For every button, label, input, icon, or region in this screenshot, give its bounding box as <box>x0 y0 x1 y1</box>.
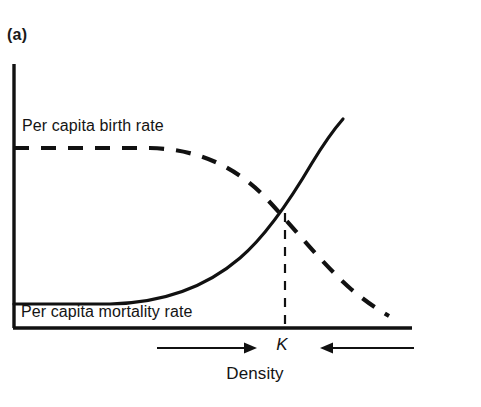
mortality-rate-curve <box>14 119 343 304</box>
mortality-rate-label: Per capita mortality rate <box>21 304 192 320</box>
birth-rate-label: Per capita birth rate <box>22 118 164 134</box>
chart-canvas <box>0 0 481 407</box>
figure-panel: (a) Per capita birth rate Per capita mor… <box>0 0 481 407</box>
arrow-right-icon <box>157 343 257 354</box>
carrying-capacity-label: K <box>262 336 302 353</box>
x-axis-label: Density <box>205 365 305 382</box>
birth-rate-curve <box>14 148 389 316</box>
arrow-left-icon <box>320 343 414 354</box>
